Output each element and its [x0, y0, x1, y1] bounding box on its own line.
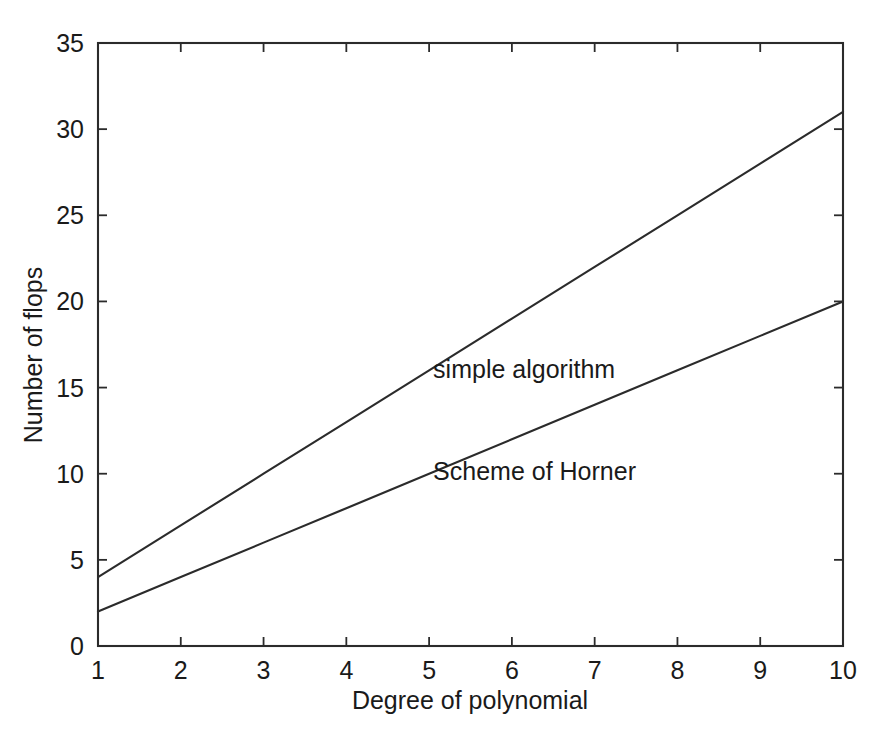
- x-tick-label: 8: [670, 656, 684, 684]
- x-tick-label: 10: [829, 656, 857, 684]
- x-tick-label: 4: [339, 656, 353, 684]
- chart-figure: 05101520253035 12345678910 simple algori…: [0, 0, 896, 730]
- x-tick-label: 1: [91, 656, 105, 684]
- series-annotation-label: simple algorithm: [433, 355, 615, 383]
- y-axis-ticks-right: [834, 43, 843, 646]
- x-axis-ticks-top: [98, 43, 843, 52]
- y-axis-tick-labels: 05101520253035: [56, 29, 84, 660]
- y-axis-title: Number of flops: [19, 267, 47, 443]
- x-tick-label: 5: [422, 656, 436, 684]
- y-tick-label: 25: [56, 201, 84, 229]
- x-tick-label: 7: [588, 656, 602, 684]
- x-axis-title: Degree of polynomial: [352, 686, 588, 714]
- x-tick-label: 6: [505, 656, 519, 684]
- y-axis-ticks: [98, 43, 107, 646]
- series-line-simple-algorithm: [98, 112, 843, 577]
- series-annotations: simple algorithmScheme of Horner: [433, 355, 636, 485]
- y-tick-label: 20: [56, 287, 84, 315]
- y-tick-label: 0: [70, 632, 84, 660]
- y-tick-label: 15: [56, 374, 84, 402]
- x-axis-ticks: [98, 637, 843, 646]
- y-tick-label: 35: [56, 29, 84, 57]
- x-tick-label: 9: [753, 656, 767, 684]
- x-axis-tick-labels: 12345678910: [91, 656, 857, 684]
- y-tick-label: 10: [56, 460, 84, 488]
- series-annotation-label: Scheme of Horner: [433, 457, 636, 485]
- x-tick-label: 3: [257, 656, 271, 684]
- x-tick-label: 2: [174, 656, 188, 684]
- y-tick-label: 5: [70, 546, 84, 574]
- line-chart: 05101520253035 12345678910 simple algori…: [0, 0, 896, 730]
- y-tick-label: 30: [56, 115, 84, 143]
